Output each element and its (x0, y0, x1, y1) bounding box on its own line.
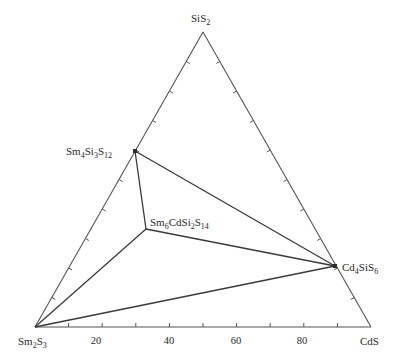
tie-line-sm4si3s12-cd4sis6 (135, 151, 335, 266)
point-cd4sis6 (333, 264, 337, 268)
label-cd4sis6: Cd4SiS6 (342, 261, 378, 276)
tick-left (169, 91, 172, 93)
label-sm4si3s12: Sm4Si3S12 (66, 145, 112, 160)
tick-left (119, 180, 122, 182)
diagram-svg: SiS2 Sm2S3 CdS Sm4Si3S12 Sm6CdSi2S14 Cd4… (0, 0, 399, 358)
axis-tick-label-40: 40 (164, 335, 175, 346)
tie-line-sm6cdsi2s14-sm2s3 (35, 229, 146, 327)
label-sis2: SiS2 (191, 12, 210, 27)
tie-lines (35, 151, 335, 327)
tick-right (284, 180, 287, 182)
axis-tick-label-60: 60 (231, 335, 242, 346)
point-sm4si3s12 (133, 149, 137, 153)
tick-right (250, 121, 253, 123)
tick-left (85, 239, 88, 241)
axis-tick-label-80: 80 (297, 335, 308, 346)
tick-right (216, 62, 219, 64)
tick-left (52, 298, 55, 300)
label-sm2s3: Sm2S3 (18, 335, 47, 350)
tie-line-cd4sis6-sm2s3 (35, 266, 335, 327)
tick-right (300, 209, 303, 211)
ternary-diagram: SiS2 Sm2S3 CdS Sm4Si3S12 Sm6CdSi2S14 Cd4… (0, 0, 399, 358)
tie-line-sm6cdsi2s14-cd4sis6 (146, 229, 335, 266)
tick-left (69, 268, 72, 270)
tick-marks (52, 62, 354, 328)
tick-left (186, 62, 189, 64)
label-cds: CdS (360, 335, 379, 347)
tick-left (102, 209, 105, 211)
axis-tick-label-20: 20 (91, 335, 102, 346)
label-sm6cdsi2s14: Sm6CdSi2S14 (150, 216, 209, 231)
tick-right (267, 150, 270, 152)
tick-right (233, 91, 236, 93)
tie-line-sm4si3s12-sm6cdsi2s14 (135, 151, 146, 229)
tick-left (153, 121, 156, 123)
tick-right (334, 268, 337, 270)
tick-right (317, 239, 320, 241)
tick-right (351, 298, 354, 300)
